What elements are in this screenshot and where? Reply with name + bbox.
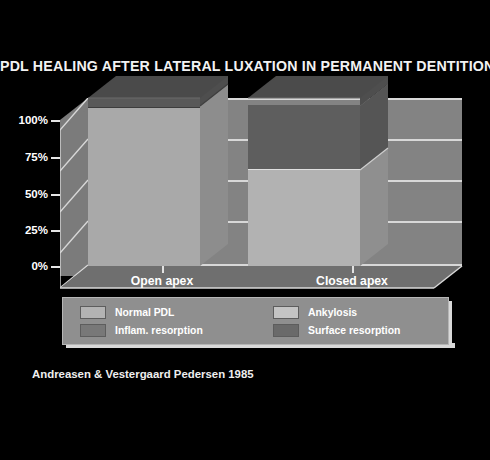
x-axis-label-open-apex: Open apex (102, 274, 222, 288)
legend-item-inflam-resorption[interactable]: Inflam. resorption (80, 324, 203, 337)
slide-canvas: PDL HEALING AFTER LATERAL LUXATION IN PE… (0, 0, 490, 460)
x-axis-tickmark-open-apex (162, 266, 164, 273)
y-axis-tickmark-50 (51, 194, 60, 196)
bar-open-apex[interactable] (88, 98, 200, 266)
legend-swatch-inflam-resorption (80, 324, 106, 337)
legend-label-ankylosis: Ankylosis (308, 307, 357, 318)
y-axis-tick-label-50: 50% (0, 188, 48, 200)
citation-text: Andreasen & Vestergaard Pedersen 1985 (32, 368, 254, 380)
y-axis-tick-label-100: 100% (0, 114, 48, 126)
x-axis-label-closed-apex: Closed apex (292, 274, 412, 288)
legend-swatch-ankylosis (273, 306, 299, 319)
bar-segment-surface-resorption-closed (248, 105, 360, 170)
bar-side-face-open (200, 76, 228, 266)
y-axis-tick-label-75: 75% (0, 151, 48, 163)
bar-closed-apex[interactable] (248, 98, 360, 266)
chart-plot-area: 100% 75% 50% 25% 0% Open apex Closed ape… (0, 88, 490, 278)
legend-label-surface-resorption: Surface resorption (308, 325, 400, 336)
x-axis-tickmark-closed-apex (352, 266, 354, 273)
bar-top-cap-closed (248, 76, 388, 100)
y-axis-tickmark-0 (51, 266, 60, 268)
y-axis-tick-label-25: 25% (0, 224, 48, 236)
legend-label-normal-pdl: Normal PDL (115, 307, 174, 318)
bar-segment-normal-pdl-open (88, 106, 200, 266)
legend-item-normal-pdl[interactable]: Normal PDL (80, 306, 174, 319)
legend-swatch-surface-resorption (273, 324, 299, 337)
chart-side-wall-gridlines (60, 98, 89, 288)
bar-segment-normal-pdl-closed (248, 170, 360, 266)
legend-item-surface-resorption[interactable]: Surface resorption (273, 324, 400, 337)
legend-label-inflam-resorption: Inflam. resorption (115, 325, 203, 336)
chart-legend: Normal PDL Inflam. resorption Ankylosis … (62, 297, 449, 345)
y-axis-tickmark-25 (51, 230, 60, 232)
bar-side-face-closed (360, 76, 388, 268)
page-title: PDL HEALING AFTER LATERAL LUXATION IN PE… (0, 58, 490, 74)
y-axis-tickmark-100 (51, 120, 60, 122)
legend-item-ankylosis[interactable]: Ankylosis (273, 306, 357, 319)
y-axis-tick-label-0: 0% (0, 260, 48, 272)
y-axis-tickmark-75 (51, 157, 60, 159)
legend-swatch-normal-pdl (80, 306, 106, 319)
bar-top-cap-open (88, 76, 228, 100)
